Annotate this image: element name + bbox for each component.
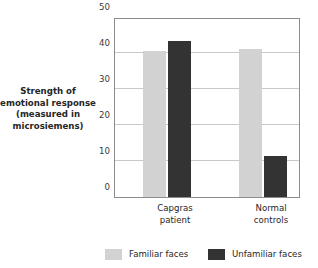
x-category-label-capgras-patient: Capgras patient: [130, 203, 220, 226]
y-tick-label-20: 20: [99, 110, 110, 120]
chart-legend: Familiar faces Unfamiliar faces: [0, 247, 318, 263]
x-category-controls-line-1: Normal: [226, 203, 316, 215]
y-axis-title-line-3: (measured in: [0, 109, 96, 121]
legend-swatch-unfamiliar-icon: [208, 249, 225, 260]
y-tick-label-30: 30: [99, 74, 110, 84]
bar-capgras-familiar: [143, 51, 166, 197]
x-category-controls-line-2: controls: [226, 215, 316, 227]
y-axis-title-line-1: Strength of: [0, 86, 96, 98]
y-tick-label-50: 50: [99, 2, 110, 12]
plot-area: 50 40 30 20 10 0: [114, 18, 300, 198]
y-tick-label-40: 40: [99, 38, 110, 48]
bar-capgras-unfamiliar: [168, 41, 191, 197]
x-category-capgras-line-2: patient: [130, 215, 220, 227]
x-category-capgras-line-1: Capgras: [130, 203, 220, 215]
legend-item-familiar-faces: Familiar faces: [105, 247, 188, 261]
bar-controls-familiar: [239, 49, 262, 197]
bar-controls-unfamiliar: [264, 156, 287, 197]
y-axis-title-line-2: emotional response: [0, 98, 96, 110]
legend-swatch-familiar-icon: [105, 249, 122, 260]
x-category-label-normal-controls: Normal controls: [226, 203, 316, 226]
y-axis-title: Strength of emotional response (measured…: [0, 86, 96, 132]
y-axis-title-line-4: microsiemens): [0, 121, 96, 133]
legend-label-familiar: Familiar faces: [129, 249, 188, 259]
y-tick-label-10: 10: [99, 146, 110, 156]
y-tick-label-0: 0: [105, 182, 110, 192]
legend-item-unfamiliar-faces: Unfamiliar faces: [208, 247, 302, 261]
legend-label-unfamiliar: Unfamiliar faces: [232, 249, 302, 259]
